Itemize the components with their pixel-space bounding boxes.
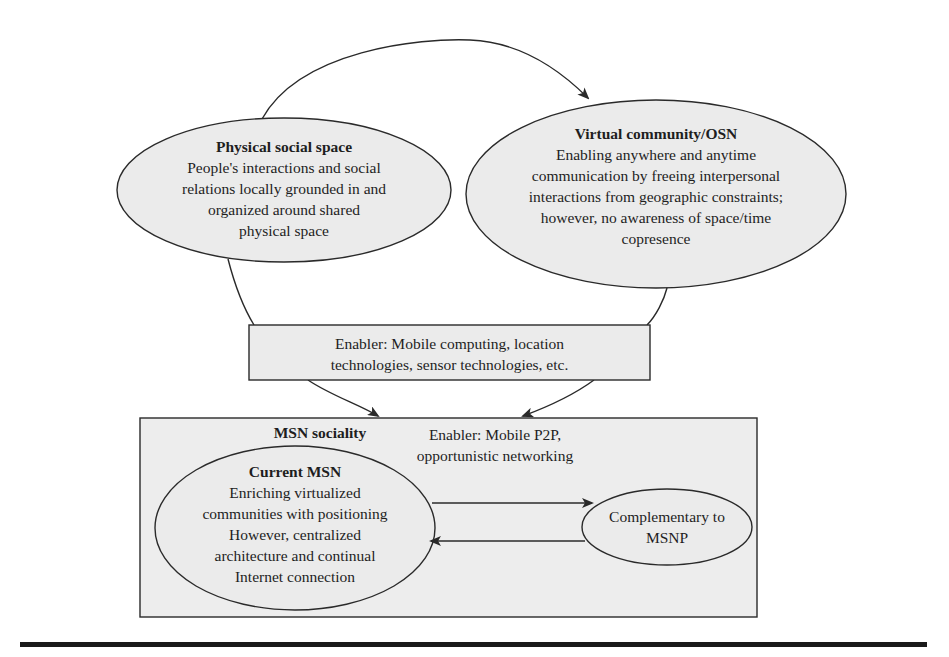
current-msn-line-5: Internet connection bbox=[175, 566, 415, 587]
physical-line-1: People's interactions and social bbox=[134, 157, 434, 178]
enabler-p2p-label: Enabler: Mobile P2P, opportunistic netwo… bbox=[395, 424, 595, 466]
physical-line-3: organized around shared bbox=[134, 199, 434, 220]
enabler-mobile-line-1: Enabler: Mobile computing, location bbox=[335, 333, 564, 354]
virtual-title: Virtual community/OSN bbox=[486, 123, 826, 144]
current-msn-line-4: architecture and continual bbox=[175, 545, 415, 566]
edge-physical-to-enabler bbox=[228, 259, 254, 325]
current-msn-line-3: However, centralized bbox=[175, 524, 415, 545]
physical-line-4: physical space bbox=[134, 220, 434, 241]
current-msn-label: Current MSN Enriching virtualized commun… bbox=[175, 461, 415, 587]
complementary-line-1: Complementary to bbox=[587, 506, 747, 527]
virtual-line-4: however, no awareness of space/time bbox=[486, 207, 826, 228]
msn-sociality-label: MSN sociality bbox=[220, 422, 420, 443]
physical-social-space-label: Physical social space People's interacti… bbox=[134, 136, 434, 241]
bottom-rule bbox=[20, 642, 927, 647]
enabler-mobile-label: Enabler: Mobile computing, location tech… bbox=[249, 327, 650, 380]
complementary-label: Complementary to MSNP bbox=[587, 506, 747, 548]
current-msn-line-1: Enriching virtualized bbox=[175, 482, 415, 503]
edge-virtual-to-enabler bbox=[647, 288, 667, 325]
physical-line-2: relations locally grounded in and bbox=[134, 178, 434, 199]
current-msn-title: Current MSN bbox=[175, 461, 415, 482]
enabler-mobile-line-2: technologies, sensor technologies, etc. bbox=[331, 354, 569, 375]
complementary-line-2: MSNP bbox=[587, 527, 747, 548]
enabler-p2p-line-1: Enabler: Mobile P2P, bbox=[395, 424, 595, 445]
enabler-p2p-line-2: opportunistic networking bbox=[395, 445, 595, 466]
virtual-line-2: communication by freeing interpersonal bbox=[486, 165, 826, 186]
current-msn-line-2: communities with positioning bbox=[175, 503, 415, 524]
virtual-line-5: copresence bbox=[486, 228, 826, 249]
virtual-community-label: Virtual community/OSN Enabling anywhere … bbox=[486, 123, 826, 249]
physical-title: Physical social space bbox=[134, 136, 434, 157]
virtual-line-3: interactions from geographic constraints… bbox=[486, 186, 826, 207]
edge-enabler-to-msn-left bbox=[308, 380, 378, 416]
msn-sociality-title: MSN sociality bbox=[220, 422, 420, 443]
virtual-line-1: Enabling anywhere and anytime bbox=[486, 144, 826, 165]
edge-enabler-to-msn-right bbox=[523, 380, 594, 416]
edge-physical-to-virtual bbox=[262, 40, 588, 119]
